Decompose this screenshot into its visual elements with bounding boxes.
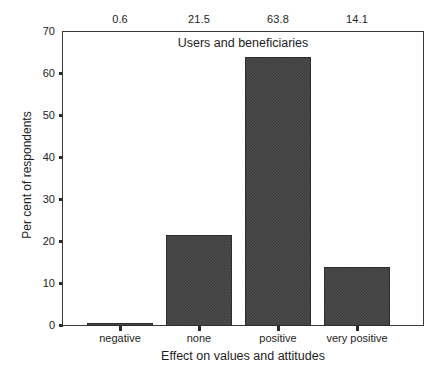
y-tick-label-70: 70 bbox=[15, 25, 55, 37]
x-tick-mark-negative bbox=[119, 326, 122, 331]
x-tick-mark-none bbox=[198, 326, 201, 331]
y-tick-label-0: 0 bbox=[15, 319, 55, 331]
y-tick-label-60: 60 bbox=[15, 67, 55, 79]
y-tick-label-20: 20 bbox=[15, 235, 55, 247]
bar-very-positive bbox=[324, 267, 390, 326]
bar-none bbox=[166, 235, 232, 326]
y-tick-label-30: 30 bbox=[15, 193, 55, 205]
bar-chart: 0.6 21.5 63.8 14.1 Per cent of responden… bbox=[0, 0, 438, 366]
y-tick-label-40: 40 bbox=[15, 151, 55, 163]
x-axis-title: Effect on values and attitudes bbox=[62, 348, 424, 364]
data-value-label-3: 14.1 bbox=[302, 13, 412, 26]
bar-positive bbox=[245, 57, 311, 326]
plot-title: Users and beneficiaries bbox=[62, 35, 424, 51]
x-tick-mark-very-positive bbox=[356, 326, 359, 331]
x-tick-label-very-positive: very positive bbox=[302, 332, 412, 345]
x-tick-mark-positive bbox=[277, 326, 280, 331]
y-tick-label-10: 10 bbox=[15, 277, 55, 289]
y-tick-label-50: 50 bbox=[15, 109, 55, 121]
